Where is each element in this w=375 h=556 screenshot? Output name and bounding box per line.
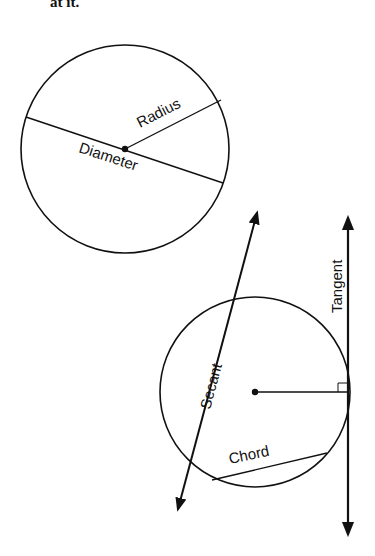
- radius-label: Radius: [134, 94, 183, 130]
- secant-line: [178, 213, 257, 509]
- center-point: [252, 389, 258, 395]
- right-angle-mark: [338, 383, 347, 392]
- diameter-label: Diameter: [77, 139, 140, 174]
- circle-radius-diameter: Radius Diameter: [21, 45, 229, 253]
- chord-label: Chord: [227, 442, 271, 467]
- circle-parts-diagram: Radius Diameter Secant Chord Tangent: [0, 0, 375, 556]
- tangent-label: Tangent: [328, 259, 345, 313]
- circle-secant-chord-tangent: Secant Chord Tangent: [160, 213, 350, 534]
- secant-label: Secant: [196, 360, 225, 410]
